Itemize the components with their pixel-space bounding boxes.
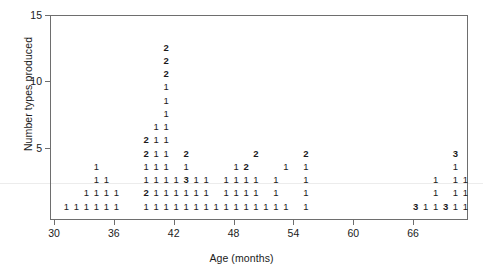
- data-point-label: 1: [461, 188, 470, 198]
- x-tick-mark: [174, 220, 175, 225]
- data-point-label: 1: [152, 188, 161, 198]
- data-point-label: 1: [152, 149, 161, 159]
- data-point-label: 3: [441, 202, 450, 212]
- data-point-label: 1: [182, 162, 191, 172]
- data-point-label: 1: [301, 188, 310, 198]
- data-point-label: 1: [102, 202, 111, 212]
- data-point-label: 1: [162, 96, 171, 106]
- data-point-label: 1: [82, 202, 91, 212]
- data-point-label: 1: [461, 175, 470, 185]
- data-point-label: 1: [162, 188, 171, 198]
- data-point-label: 1: [222, 188, 231, 198]
- data-point-label: 1: [92, 202, 101, 212]
- data-point-label: 2: [142, 149, 151, 159]
- x-tick-mark: [353, 220, 354, 225]
- data-point-label: 1: [431, 175, 440, 185]
- data-point-label: 1: [271, 188, 280, 198]
- data-point-label: 3: [182, 175, 191, 185]
- data-point-label: 1: [142, 175, 151, 185]
- data-point-label: 1: [102, 188, 111, 198]
- data-point-label: 1: [162, 135, 171, 145]
- y-tick-label: 5: [12, 143, 42, 153]
- data-point-label: 1: [451, 188, 460, 198]
- data-point-label: 1: [192, 175, 201, 185]
- data-point-label: 1: [451, 162, 460, 172]
- data-point-label: 1: [202, 188, 211, 198]
- data-point-label: 1: [461, 202, 470, 212]
- data-point-label: 2: [142, 135, 151, 145]
- data-point-label: 1: [162, 122, 171, 132]
- data-point-label: 1: [162, 149, 171, 159]
- data-point-label: 1: [82, 188, 91, 198]
- data-point-label: 1: [152, 135, 161, 145]
- data-point-label: 1: [172, 202, 181, 212]
- data-point-label: 1: [212, 202, 221, 212]
- y-tick-label: 15: [12, 10, 42, 20]
- data-point-label: 1: [451, 175, 460, 185]
- data-point-label: 1: [92, 175, 101, 185]
- data-point-label: 1: [301, 202, 310, 212]
- data-point-label: 3: [451, 149, 460, 159]
- data-point-label: 1: [202, 175, 211, 185]
- data-point-label: 1: [431, 188, 440, 198]
- x-tick-mark: [114, 220, 115, 225]
- data-point-label: 1: [92, 188, 101, 198]
- data-point-label: 1: [162, 202, 171, 212]
- data-point-label: 1: [242, 188, 251, 198]
- data-point-label: 1: [72, 202, 81, 212]
- data-point-label: 1: [232, 188, 241, 198]
- data-point-label: 2: [162, 43, 171, 53]
- data-point-label: 1: [172, 188, 181, 198]
- data-point-label: 1: [431, 202, 440, 212]
- data-point-label: 1: [222, 175, 231, 185]
- x-tick-label: 60: [333, 228, 373, 239]
- data-point-label: 1: [271, 175, 280, 185]
- data-point-label: 1: [281, 162, 290, 172]
- data-point-label: 1: [92, 162, 101, 172]
- data-point-label: 1: [242, 175, 251, 185]
- data-point-label: 1: [232, 162, 241, 172]
- data-point-label: 1: [421, 202, 430, 212]
- data-point-label: 2: [182, 149, 191, 159]
- data-point-label: 3: [411, 202, 420, 212]
- data-point-label: 1: [182, 202, 191, 212]
- data-point-label: 1: [152, 202, 161, 212]
- data-point-label: 1: [261, 202, 270, 212]
- data-point-label: 1: [232, 175, 241, 185]
- data-point-label: 1: [142, 162, 151, 172]
- data-point-label: 1: [222, 202, 231, 212]
- data-point-label: 2: [301, 149, 310, 159]
- data-point-label: 1: [152, 122, 161, 132]
- data-point-label: 1: [252, 175, 261, 185]
- y-tick-label: 10: [12, 76, 42, 86]
- plot-area: 1111111111111111111111111111121111111111…: [50, 15, 468, 220]
- x-tick-label: 36: [94, 228, 134, 239]
- data-point-label: 2: [162, 56, 171, 66]
- x-tick-mark: [54, 220, 55, 225]
- data-point-label: 1: [152, 175, 161, 185]
- data-point-label: 1: [192, 188, 201, 198]
- data-point-label: 1: [301, 162, 310, 172]
- data-point-label: 1: [252, 188, 261, 198]
- data-point-label: 1: [451, 202, 460, 212]
- x-tick-label: 54: [273, 228, 313, 239]
- x-tick-label: 30: [34, 228, 74, 239]
- data-point-label: 1: [152, 162, 161, 172]
- scatter-plot-figure: Number types produced Age (months) 51015…: [0, 0, 483, 277]
- data-point-label: 1: [202, 202, 211, 212]
- data-point-label: 2: [162, 69, 171, 79]
- data-point-label: 2: [142, 188, 151, 198]
- data-point-label: 1: [142, 202, 151, 212]
- data-point-label: 1: [162, 175, 171, 185]
- x-tick-mark: [413, 220, 414, 225]
- data-point-label: 2: [242, 162, 251, 172]
- data-point-label: 1: [102, 175, 111, 185]
- x-tick-mark: [293, 220, 294, 225]
- data-point-label: 1: [252, 202, 261, 212]
- data-point-label: 1: [162, 82, 171, 92]
- x-axis-title: Age (months): [0, 252, 483, 264]
- x-tick-label: 42: [154, 228, 194, 239]
- data-point-label: 1: [62, 202, 71, 212]
- data-point-label: 1: [112, 202, 121, 212]
- data-point-label: 1: [192, 202, 201, 212]
